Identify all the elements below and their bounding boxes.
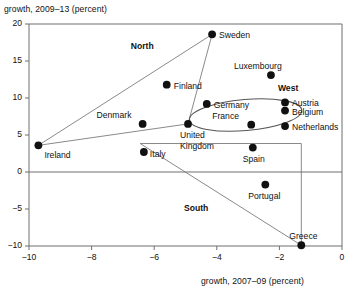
x-tick-label: −2 [259, 252, 299, 262]
point-label-france: France [212, 111, 239, 121]
data-point-germany[interactable] [203, 100, 211, 108]
point-label-sweden: Sweden [219, 30, 250, 40]
y-tick-label: 5 [0, 129, 22, 139]
point-label-portugal: Portugal [248, 191, 280, 201]
point-label-belgium: Belgium [292, 107, 323, 117]
region-label-west: West [278, 83, 298, 93]
y-tick-label: −5 [0, 203, 22, 213]
y-tick-label: 20 [0, 18, 22, 28]
point-label-netherlands: Netherlands [292, 122, 338, 132]
y-tick-label: 15 [0, 55, 22, 65]
y-tick-label: 0 [0, 166, 22, 176]
x-tick-label: −8 [72, 252, 112, 262]
x-tick-label: −10 [9, 252, 49, 262]
region-label-south: South [184, 203, 208, 213]
data-point-portugal[interactable] [261, 181, 269, 189]
point-label-ireland: Ireland [44, 150, 70, 160]
data-point-denmark[interactable] [139, 120, 147, 128]
region-label-north: North [131, 41, 154, 51]
y-tick-label: 10 [0, 92, 22, 102]
data-point-france[interactable] [247, 121, 255, 129]
point-label-spain: Spain [243, 154, 265, 164]
x-tick-label: 0 [322, 252, 349, 262]
data-point-greece[interactable] [297, 241, 305, 249]
data-point-netherlands[interactable] [281, 122, 289, 130]
data-point-luxembourg[interactable] [267, 71, 275, 79]
data-point-spain[interactable] [249, 144, 257, 152]
x-tick-label: −4 [197, 252, 237, 262]
data-point-united-kingdom[interactable] [184, 120, 192, 128]
point-label-luxembourg: Luxembourg [234, 61, 282, 71]
point-label-united-kingdom: United [180, 130, 205, 140]
point-label-denmark: Denmark [97, 110, 132, 120]
data-point-belgium[interactable] [281, 107, 289, 115]
point-label-finland: Finland [174, 81, 202, 91]
point-label-united-kingdom: Kingdom [180, 141, 214, 151]
point-label-italy: Italy [150, 149, 166, 159]
data-point-austria[interactable] [281, 99, 289, 107]
point-label-germany: Germany [214, 100, 249, 110]
data-point-sweden[interactable] [208, 30, 216, 38]
plot-area [0, 0, 349, 295]
data-point-italy[interactable] [140, 148, 148, 156]
point-label-greece: Greece [289, 231, 317, 241]
data-point-ireland[interactable] [34, 141, 42, 149]
x-tick-label: −6 [134, 252, 174, 262]
y-tick-label: −10 [0, 240, 22, 250]
data-point-finland[interactable] [163, 81, 171, 89]
scatter-chart: growth, 2009–13 (percent) growth, 2007–0… [0, 0, 349, 295]
